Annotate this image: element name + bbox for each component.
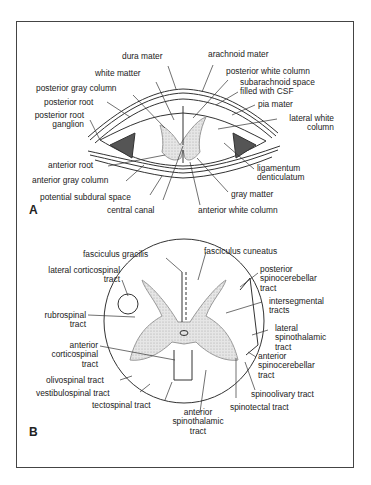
label-arachnoid-mater: arachnoid mater (208, 50, 269, 59)
label-line: tract (260, 284, 317, 293)
label-rubrospinal-tract: rubrospinal tract (30, 311, 86, 330)
label-lateral-corticospinal-tract: lateral corticospinal tract (28, 266, 120, 285)
label-white-matter: white matter (95, 69, 141, 78)
label-spinoolivary-tract: spinoolivary tract (251, 390, 314, 399)
label-anterior-spinothalamic-tract: anterior spinothalamic tract (166, 408, 230, 436)
label-anterior-corticospinal-tract: anterior corticospinal tract (36, 341, 98, 369)
label-pia-mater: pia mater (258, 100, 293, 109)
label-anterior-gray-column: anterior gray column (32, 176, 108, 185)
label-posterior-gray-column: posterior gray column (36, 84, 117, 93)
label-olivospinal-tract: olivospinal tract (46, 376, 104, 385)
panel-b-letter: B (29, 425, 38, 439)
label-line: tract (166, 427, 230, 436)
label-subarachnoid-space: subarachnoid space filled with CSF (240, 78, 315, 97)
label-gray-matter: gray matter (231, 190, 273, 199)
label-tectospinal-tract: tectospinal tract (92, 401, 151, 410)
label-lateral-white-column: lateral white column (278, 114, 334, 133)
label-line: denticulatum (257, 173, 305, 182)
label-lateral-spinothalamic-tract: lateral spinothalamic tract (275, 324, 326, 352)
label-posterior-white-column: posterior white column (226, 67, 310, 76)
panel-b-drawing (104, 239, 264, 403)
label-anterior-white-column: anterior white column (198, 206, 278, 215)
label-anterior-root: anterior root (48, 161, 93, 170)
label-fasciculus-cuneatus: fasciculus cuneatus (204, 247, 277, 256)
label-line: tract (30, 320, 86, 329)
label-posterior-root: posterior root (44, 98, 93, 107)
label-posterior-spinocerebellar-tract: posterior spinocerebellar tract (260, 265, 317, 293)
label-line: tract (36, 360, 98, 369)
label-line: filled with CSF (240, 87, 315, 96)
label-vestibulospinal-tract: vestibulospinal tract (36, 389, 110, 398)
label-potential-subdural-space: potential subdural space (40, 193, 131, 202)
label-anterior-spinocerebellar-tract: anterior spinocerebellar tract (258, 352, 315, 380)
label-line: tract (258, 371, 315, 380)
label-line: tracts (269, 306, 324, 315)
label-line: tract (28, 275, 120, 284)
label-ligamentum-denticulatum: ligamentum denticulatum (257, 164, 305, 183)
label-line: ganglion (28, 120, 84, 129)
label-fasciculus-gracilis: fasciculus gracilis (83, 250, 148, 259)
label-spinotectal-tract: spinotectal tract (230, 403, 289, 412)
label-dura-mater: dura mater (122, 52, 163, 61)
label-posterior-root-ganglion: posterior root ganglion (28, 111, 84, 130)
label-intersegmental-tracts: intersegmental tracts (269, 297, 324, 316)
label-central-canal: central canal (107, 206, 155, 215)
panel-a-letter: A (29, 203, 38, 217)
label-line: column (278, 123, 334, 132)
